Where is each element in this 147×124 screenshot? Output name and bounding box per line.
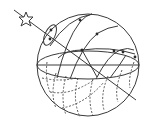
star-icon (19, 12, 33, 26)
hidden-diurnal-paths (42, 62, 134, 117)
celestial-sphere-diagram (0, 0, 147, 124)
circumpolar-circle (41, 23, 59, 47)
